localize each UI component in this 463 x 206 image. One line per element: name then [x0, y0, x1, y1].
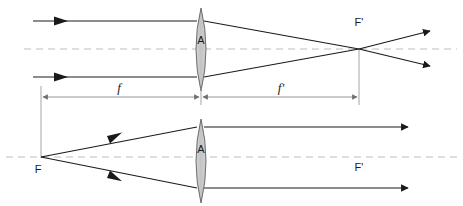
- top-diagram-group: A F': [24, 8, 457, 91]
- converging-lens-bottom: [196, 119, 206, 203]
- lower-parallel-ray-arrowhead-top: [54, 73, 68, 82]
- focal-point-label-top: F': [355, 16, 364, 28]
- image-focal-point-label-bottom: F': [355, 161, 364, 173]
- object-focal-point-label-bottom: F: [35, 163, 42, 175]
- focal-length-fprime-label: f': [278, 80, 285, 95]
- upper-parallel-ray-arrowhead-top: [54, 17, 68, 26]
- lens-label-bottom: A: [197, 143, 205, 155]
- upper-converging-ray: [204, 21, 359, 49]
- ray-diagram-canvas: A F' f f' A F F': [0, 0, 463, 206]
- focal-length-f-label: f: [117, 80, 123, 95]
- lower-converging-ray: [204, 49, 359, 77]
- upper-diverging-ray: [359, 31, 430, 49]
- lens-label-top: A: [197, 34, 205, 46]
- lower-ray-from-focus: [41, 157, 197, 188]
- lower-diverging-ray: [359, 49, 430, 66]
- bottom-diagram-group: A F F': [6, 119, 457, 203]
- converging-lens-top: [196, 8, 206, 91]
- optics-ray-diagram-figure: A F' f f' A F F': [0, 0, 463, 206]
- upper-ray-from-focus: [41, 127, 197, 157]
